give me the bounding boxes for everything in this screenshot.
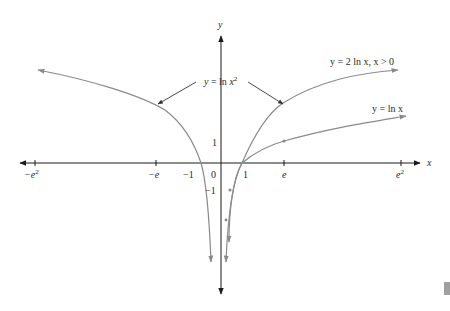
tick-label-e: e	[282, 169, 287, 180]
label-ln-x: y = ln x	[372, 103, 403, 114]
point-e-1	[282, 139, 285, 142]
point-ln-x-mid	[225, 219, 228, 222]
label-two-ln-x: y = 2 ln x, x > 0	[330, 56, 394, 67]
tick-label-neg-e2: −e2	[24, 168, 39, 180]
pointer-right	[248, 82, 283, 104]
tick-label-1: 1	[243, 169, 248, 180]
y-axis-label: y	[217, 19, 223, 30]
tick-label-neg-1: −1	[183, 169, 194, 180]
point-ln-x-lower	[228, 188, 231, 191]
curve-ln-x-squared-right	[226, 70, 398, 262]
tick-label-0: 0	[211, 169, 216, 180]
curve-ln-x-squared-left	[38, 70, 211, 262]
page-marker	[444, 282, 450, 295]
label-ln-x-squared: y = ln x2	[203, 75, 238, 87]
log-graph: x y −e2 −e −1 0 1 e e2 1 −1 y = ln x2 y …	[0, 0, 450, 311]
pointer-left	[158, 82, 196, 104]
tick-label-y-1: 1	[212, 137, 217, 148]
x-axis-label: x	[426, 157, 432, 168]
tick-label-y-neg-1: −1	[205, 185, 216, 196]
tick-label-e2: e2	[396, 168, 404, 180]
tick-label-neg-e: −e	[148, 169, 160, 180]
